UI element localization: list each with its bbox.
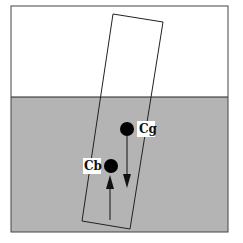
center-of-buoyancy-dot [104, 159, 118, 173]
cb-label: Cb [84, 159, 102, 173]
buoyancy-diagram: Cg Cb [0, 0, 243, 243]
center-of-gravity-dot [120, 122, 134, 136]
water-region [11, 97, 228, 232]
cg-label: Cg [139, 122, 158, 136]
air-region [11, 6, 228, 97]
